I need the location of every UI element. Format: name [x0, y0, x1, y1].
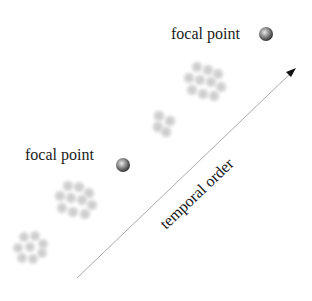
focal-point-middle-label: focal point [25, 146, 94, 164]
cell-cluster-lower-middle [53, 179, 99, 221]
focal-point-top: focal point [171, 25, 273, 43]
cell-cluster-bottom-left [12, 230, 50, 266]
arrow-line [77, 72, 292, 278]
temporal-order-arrow [77, 68, 296, 278]
embryo-development-diagram: temporal order [0, 0, 312, 301]
focal-point-sphere-icon [259, 27, 273, 41]
cell-cluster-upper [182, 60, 228, 103]
arrowhead-icon [286, 68, 296, 77]
focal-point-middle: focal point [25, 146, 130, 172]
focal-point-sphere-icon [116, 158, 130, 172]
focal-point-top-label: focal point [171, 25, 240, 43]
axis-label: temporal order [156, 154, 238, 233]
cell-cluster-small [151, 109, 177, 139]
